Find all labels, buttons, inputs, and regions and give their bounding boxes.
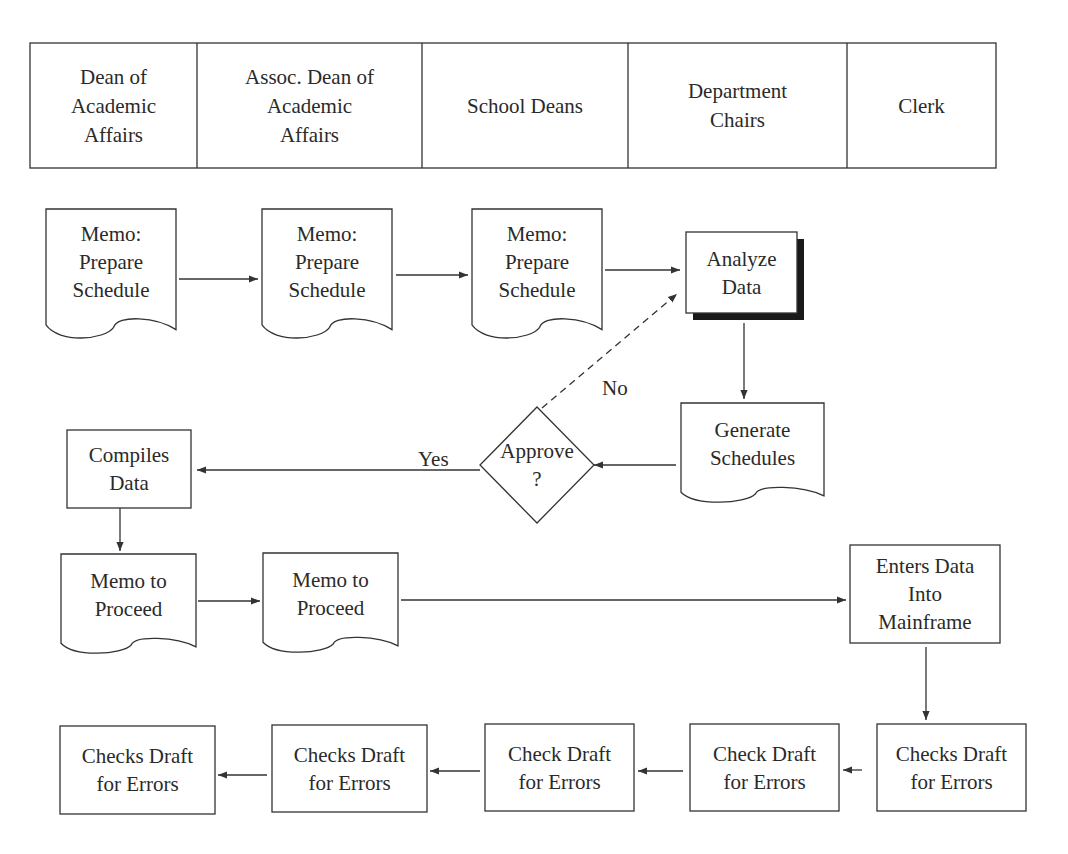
edge-label-no: No — [602, 376, 628, 400]
process-shape — [877, 724, 1026, 811]
node-label: Memo: — [81, 222, 142, 246]
flowchart-canvas: Dean ofAcademicAffairsAssoc. Dean ofAcad… — [0, 0, 1068, 854]
node-label: Proceed — [297, 596, 365, 620]
swimlane-label: Academic — [71, 94, 156, 118]
node-label: Data — [109, 471, 149, 495]
swimlane-label: Department — [688, 79, 787, 103]
swimlane-label: Dean of — [80, 65, 147, 89]
node-compiles[interactable]: CompilesData — [67, 430, 191, 508]
swimlane-label: Affairs — [84, 123, 143, 147]
process-shape — [60, 726, 215, 814]
node-mainframe[interactable]: Enters DataIntoMainframe — [850, 545, 1000, 643]
node-label: Check Draft — [508, 742, 611, 766]
edge-approve-to-compiles: Yes — [197, 447, 480, 471]
node-check5[interactable]: Checks Draftfor Errors — [877, 724, 1026, 811]
node-label: Mainframe — [878, 610, 971, 634]
node-check2[interactable]: Checks Draftfor Errors — [272, 725, 427, 812]
node-label: Checks Draft — [82, 744, 194, 768]
node-check1[interactable]: Checks Draftfor Errors — [60, 726, 215, 814]
node-label: Memo to — [292, 568, 368, 592]
node-label: Prepare — [295, 250, 359, 274]
node-label: Schedules — [710, 446, 795, 470]
decision-diamond — [480, 407, 594, 523]
node-check4[interactable]: Check Draftfor Errors — [690, 724, 839, 811]
node-label: for Errors — [308, 771, 390, 795]
process-shape — [686, 232, 797, 313]
swimlane-label: Clerk — [898, 94, 945, 118]
swimlane-label: School Deans — [467, 94, 583, 118]
node-generate[interactable]: GenerateSchedules — [681, 403, 824, 502]
node-label: Memo: — [297, 222, 358, 246]
node-label: Analyze — [707, 247, 777, 271]
node-memo2[interactable]: Memo:PrepareSchedule — [262, 209, 392, 338]
node-label: Generate — [715, 418, 791, 442]
process-shape — [67, 430, 191, 508]
swimlane-header: Dean ofAcademicAffairsAssoc. Dean ofAcad… — [30, 43, 996, 168]
node-label: Schedule — [499, 278, 576, 302]
swimlane-label: Affairs — [280, 123, 339, 147]
node-label: for Errors — [910, 770, 992, 794]
node-label: Prepare — [79, 250, 143, 274]
node-label: Checks Draft — [294, 743, 406, 767]
process-shape — [690, 724, 839, 811]
node-label: Approve — [500, 439, 573, 463]
node-memo1[interactable]: Memo:PrepareSchedule — [46, 209, 176, 338]
node-label: Schedule — [289, 278, 366, 302]
node-label: Enters Data — [876, 554, 975, 578]
node-label: Proceed — [95, 597, 163, 621]
swimlane-label: Assoc. Dean of — [245, 65, 374, 89]
node-label: for Errors — [723, 770, 805, 794]
swimlane-label: Academic — [267, 94, 352, 118]
node-approve[interactable]: Approve? — [480, 407, 594, 523]
node-label: Schedule — [73, 278, 150, 302]
flow-connectors: NoYes — [120, 270, 926, 775]
swimlane-label: Chairs — [710, 108, 765, 132]
node-label: ? — [532, 467, 541, 491]
node-label: Memo: — [507, 222, 568, 246]
node-label: Data — [722, 275, 762, 299]
node-label: Check Draft — [713, 742, 816, 766]
node-check3[interactable]: Check Draftfor Errors — [485, 724, 634, 811]
node-memo3[interactable]: Memo:PrepareSchedule — [472, 209, 602, 338]
node-label: Memo to — [90, 569, 166, 593]
node-label: Into — [908, 582, 942, 606]
edge-label-yes: Yes — [418, 447, 449, 471]
node-label: for Errors — [518, 770, 600, 794]
process-shape — [272, 725, 427, 812]
node-proceed1[interactable]: Memo toProceed — [61, 554, 196, 653]
node-label: Compiles — [89, 443, 170, 467]
node-analyze[interactable]: AnalyzeData — [686, 232, 804, 320]
process-shape — [485, 724, 634, 811]
node-proceed2[interactable]: Memo toProceed — [263, 553, 398, 652]
node-label: Checks Draft — [896, 742, 1008, 766]
node-label: Prepare — [505, 250, 569, 274]
node-label: for Errors — [96, 772, 178, 796]
flow-nodes: Memo:PrepareScheduleMemo:PrepareSchedule… — [46, 209, 1026, 814]
